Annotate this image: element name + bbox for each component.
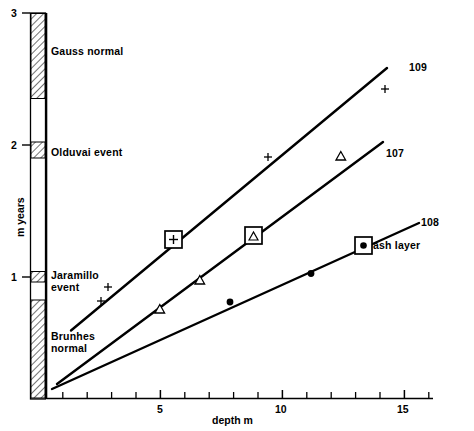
y-tick-label-3: 3 [11,7,17,19]
series-108 [52,223,419,389]
polarity-band-gauss-normal [31,14,45,99]
series-107-ash-layer-marker [245,227,262,244]
x-tick-label-5: 5 [157,403,163,415]
series-109-line [71,68,387,331]
x-axis-title: depth m [212,414,253,426]
y-tick-label-2: 2 [11,139,17,151]
x-axis-ticks [63,390,429,399]
polarity-label-jaramillo-line1: Jaramillo [51,269,99,281]
polarity-label-brunhes-line1: Brunhes [51,330,95,342]
figure-canvas [0,0,474,431]
polarity-band-olduvai-event [31,142,45,158]
x-tick-label-15: 15 [397,403,409,415]
polarity-label-jaramillo-event: Jaramillo event [51,269,99,294]
y-axis-ticks [22,13,30,277]
polarity-band-jaramillo-event [31,272,45,283]
polarity-label-brunhes-line2: normal [51,342,87,354]
x-tick-label-10: 10 [275,403,287,415]
y-axis-title: m years [14,197,26,237]
polarity-label-jaramillo-line2: event [51,281,79,293]
polarity-band-brunhes-normal [31,300,45,398]
y-tick-label-1: 1 [11,271,17,283]
series-109-ash-layer-marker [165,231,182,248]
series-107 [57,142,383,384]
series-107-line [57,142,383,384]
polarity-label-gauss-normal: Gauss normal [51,45,123,57]
series-label-107: 107 [386,147,404,159]
series-label-108: 108 [421,216,439,228]
series-109 [71,68,389,331]
series-108-ash-layer-marker [355,237,372,254]
polarity-label-olduvai-event: Olduvai event [51,146,122,158]
axis-lines [47,13,434,399]
polarity-column [31,13,46,399]
polarity-label-brunhes-normal: Brunhes normal [51,330,95,355]
series-label-109: 109 [409,61,427,73]
age-depth-figure: 3 2 1 5 10 15 m years depth m Gauss norm… [0,0,474,431]
ash-layer-annotation: ash layer [373,239,420,251]
